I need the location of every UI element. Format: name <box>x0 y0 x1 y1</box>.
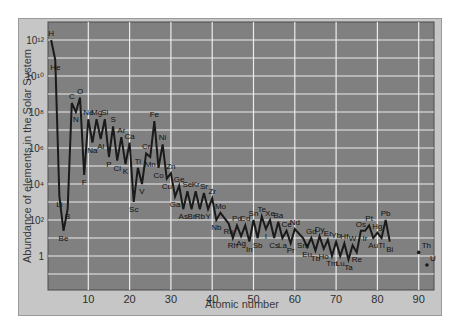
element-label: As <box>179 212 188 221</box>
element-label: I <box>265 232 267 241</box>
element-label: Sc <box>129 205 138 214</box>
element-label: Pb <box>381 209 391 218</box>
x-tick-label: 90 <box>413 293 425 305</box>
element-label: Mo <box>215 202 227 211</box>
element-label: Pr <box>287 246 295 255</box>
element-label: Ni <box>159 133 167 142</box>
element-label: Ir <box>363 234 368 243</box>
data-point <box>417 251 421 255</box>
element-label: Be <box>59 234 69 243</box>
element-label: Co <box>153 171 164 180</box>
element-label: Si <box>101 108 108 117</box>
element-label: Tl <box>378 241 385 250</box>
element-label: Sb <box>253 241 263 250</box>
element-label: Bi <box>386 245 393 254</box>
element-label: Zn <box>166 162 175 171</box>
x-tick-label: 60 <box>289 293 301 305</box>
element-label: Sr <box>200 182 208 191</box>
x-tick-label: 70 <box>330 293 342 305</box>
element-label: Sm <box>297 241 309 250</box>
element-label: S <box>110 115 115 124</box>
element-label: Nb <box>211 223 222 232</box>
element-label: Nd <box>290 218 300 227</box>
element-label: Re <box>352 255 363 264</box>
element-label: Fe <box>150 110 160 119</box>
element-label: Ga <box>170 200 181 209</box>
x-tick-label: 50 <box>247 293 259 305</box>
element-label: Kr <box>192 180 200 189</box>
element-label: He <box>50 63 61 72</box>
element-label: P <box>106 160 111 169</box>
y-tick-label: 1 <box>38 251 44 262</box>
element-label: Y <box>205 212 211 221</box>
x-tick-label: 40 <box>206 293 218 305</box>
x-tick-label: 30 <box>165 293 177 305</box>
y-tick-label: 10¹² <box>26 35 44 46</box>
element-label: W <box>349 234 357 243</box>
data-point <box>425 263 429 267</box>
y-tick-label: 10⁸ <box>29 107 44 118</box>
element-label: Hg <box>372 222 382 231</box>
element-label: Cl <box>113 164 121 173</box>
element-label: C <box>69 92 75 101</box>
y-tick-label: 10⁴ <box>29 179 44 190</box>
element-label: Ti <box>135 157 142 166</box>
element-label: H <box>48 29 54 38</box>
element-label: Ag <box>236 239 246 248</box>
element-label: Ca <box>124 132 135 141</box>
element-label: Th <box>422 241 431 250</box>
element-label: O <box>77 87 83 96</box>
element-label: Ba <box>273 211 283 220</box>
element-label: Rb <box>195 212 206 221</box>
element-label: Cr <box>142 142 151 151</box>
x-tick-label: 20 <box>123 293 135 305</box>
element-label: Hf <box>340 232 349 241</box>
element-label: B <box>65 212 70 221</box>
abundance-chart: 10203040506070809010¹²10¹⁰10⁸10⁶10⁴10²1H… <box>0 0 454 332</box>
x-tick-label: 80 <box>371 293 383 305</box>
element-label: Mn <box>145 160 156 169</box>
element-label: In <box>246 245 253 254</box>
element-label: F <box>82 178 87 187</box>
element-label: Ru <box>224 227 234 236</box>
element-label: V <box>139 187 145 196</box>
x-tick-label: 10 <box>82 293 94 305</box>
element-label: Zr <box>208 187 216 196</box>
y-tick-label: 10² <box>30 215 45 226</box>
element-label: K <box>123 167 129 176</box>
element-label: U <box>430 254 436 263</box>
element-label: N <box>73 115 79 124</box>
element-label: Li <box>56 200 62 209</box>
element-label: Au <box>368 241 378 250</box>
y-tick-label: 10¹⁰ <box>26 71 44 82</box>
y-tick-label: 10⁶ <box>29 143 44 154</box>
element-label: Al <box>97 142 104 151</box>
element-label: Cu <box>162 182 172 191</box>
